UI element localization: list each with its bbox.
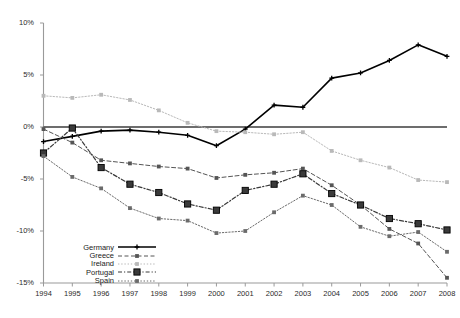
y-tick-label: -5%: [4, 174, 34, 183]
legend-swatch-portugal: [117, 268, 157, 276]
data-point-marker: [157, 165, 161, 169]
data-point-marker: [330, 203, 334, 207]
data-point-marker: [128, 206, 132, 210]
data-point-marker: [329, 190, 335, 196]
data-point-marker: [128, 128, 133, 133]
legend-item-label: Spain: [95, 276, 117, 285]
data-point-marker: [69, 125, 75, 131]
data-point-marker: [186, 219, 190, 223]
legend-swatch-ireland: [117, 260, 157, 268]
data-point-marker: [127, 181, 133, 187]
data-point-marker: [186, 167, 190, 171]
data-point-marker: [357, 202, 363, 208]
data-point-marker: [99, 158, 103, 162]
data-point-marker: [135, 254, 139, 258]
data-point-marker: [70, 141, 74, 145]
data-point-marker: [271, 181, 277, 187]
data-point-marker: [445, 250, 449, 254]
data-point-marker: [135, 245, 140, 250]
data-point-marker: [42, 127, 46, 131]
data-point-marker: [387, 227, 391, 231]
data-point-marker: [359, 158, 363, 162]
data-point-marker: [134, 269, 140, 275]
legend-swatch-germany: [117, 243, 157, 251]
data-point-marker: [416, 178, 420, 182]
y-tick-label: 0%: [4, 122, 34, 131]
y-tick-label: 5%: [4, 70, 34, 79]
data-point-marker: [157, 217, 161, 221]
data-point-marker: [387, 234, 391, 238]
data-point-marker: [386, 215, 392, 221]
series-line: [44, 128, 448, 230]
data-point-marker: [445, 54, 450, 59]
data-point-marker: [98, 164, 104, 170]
data-point-marker: [243, 130, 247, 134]
data-point-marker: [358, 71, 363, 76]
data-point-marker: [415, 221, 421, 227]
legend-swatch-greece: [117, 252, 157, 260]
legend-item-spain[interactable]: Spain: [41, 277, 157, 285]
data-point-marker: [42, 94, 46, 98]
data-point-marker: [445, 276, 449, 280]
data-point-marker: [444, 227, 450, 233]
data-point-marker: [157, 108, 161, 112]
data-point-marker: [128, 162, 132, 166]
x-tick-label: 2008: [430, 289, 460, 298]
legend-swatch-spain: [117, 277, 157, 285]
data-point-marker: [416, 230, 420, 234]
data-point-marker: [301, 130, 305, 134]
data-point-marker: [185, 201, 191, 207]
data-point-marker: [135, 279, 139, 283]
data-point-marker: [272, 171, 276, 175]
data-point-marker: [213, 207, 219, 213]
data-point-marker: [387, 166, 391, 170]
data-point-marker: [301, 194, 305, 198]
data-point-marker: [330, 149, 334, 153]
data-point-marker: [42, 154, 46, 158]
data-point-marker: [272, 210, 276, 214]
chart-legend: GermanyGreeceIrelandPortugalSpain: [41, 243, 157, 285]
data-point-marker: [70, 175, 74, 179]
y-tick-label: 10%: [4, 18, 34, 27]
data-point-marker: [330, 183, 334, 187]
data-point-marker: [242, 187, 248, 193]
data-point-marker: [215, 176, 219, 180]
data-point-marker: [70, 134, 75, 139]
data-point-marker: [156, 189, 162, 195]
data-point-marker: [215, 129, 219, 133]
data-point-marker: [135, 262, 139, 266]
data-point-marker: [300, 171, 306, 177]
data-point-marker: [445, 180, 449, 184]
series-portugal: [40, 125, 450, 233]
data-point-marker: [99, 129, 104, 134]
data-point-marker: [41, 139, 46, 144]
line-chart: 10%5%0%-5%-10%-15% 199419951996199719981…: [0, 0, 460, 318]
data-point-marker: [416, 242, 420, 246]
data-point-marker: [185, 133, 190, 138]
data-point-marker: [99, 186, 103, 190]
data-point-marker: [243, 173, 247, 177]
y-tick-label: -15%: [4, 278, 34, 287]
y-tick-label: -10%: [4, 226, 34, 235]
data-point-marker: [359, 225, 363, 229]
data-point-marker: [243, 229, 247, 233]
data-point-marker: [186, 121, 190, 125]
data-point-marker: [272, 132, 276, 136]
data-point-marker: [70, 96, 74, 100]
data-point-marker: [301, 167, 305, 171]
data-point-marker: [215, 231, 219, 235]
data-point-marker: [156, 130, 161, 135]
data-point-marker: [128, 98, 132, 102]
data-point-marker: [99, 93, 103, 97]
